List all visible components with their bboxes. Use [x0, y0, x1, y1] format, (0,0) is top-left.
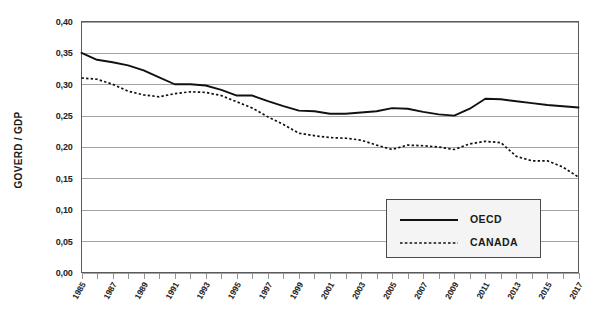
y-axis-tick-label: 0,25 [56, 111, 73, 121]
series-group [82, 53, 579, 177]
legend-label-oecd: OECD [470, 213, 502, 225]
x-axis-tick-label: 2005 [381, 280, 399, 301]
series-line-canada [82, 78, 579, 177]
x-axis-tick-label: 1993 [194, 280, 212, 301]
y-axis-tick-label: 0,00 [56, 268, 73, 278]
y-axis-tick-label: 0,15 [56, 174, 73, 184]
x-axis-tick-label: 2003 [350, 280, 368, 301]
x-axis: 1985198719891991199319951997199920012003… [70, 273, 585, 301]
x-axis-tick-label: 1997 [257, 280, 275, 301]
y-axis-tick-label: 0,20 [56, 142, 73, 152]
x-axis-tick-label: 2017 [567, 280, 585, 301]
legend: OECDCANADA [387, 200, 541, 258]
x-axis-tick-label: 1995 [225, 280, 243, 301]
y-axis-tick-label: 0,05 [56, 237, 73, 247]
legend-label-canada: CANADA [470, 236, 518, 248]
legend-box [387, 200, 541, 258]
x-axis-tick-label: 2009 [443, 280, 461, 301]
x-axis-tick-label: 1999 [288, 280, 306, 301]
y-axis-tick-label: 0,30 [56, 80, 73, 90]
x-axis-tick-label: 1987 [101, 280, 119, 301]
x-axis-tick-label: 2013 [505, 280, 523, 301]
chart-container: 0,000,050,100,150,200,250,300,350,40GOVE… [0, 0, 596, 319]
x-axis-tick-label: 1991 [163, 280, 181, 301]
x-axis-tick-label: 1985 [70, 280, 88, 301]
line-chart: 0,000,050,100,150,200,250,300,350,40GOVE… [0, 0, 596, 319]
y-axis-title: GOVERD / GDP [13, 112, 24, 189]
y-axis-tick-label: 0,35 [56, 48, 73, 58]
y-axis-tick-label: 0,40 [56, 17, 73, 27]
x-axis-tick-label: 2015 [536, 280, 554, 301]
x-axis-tick-label: 2011 [474, 280, 492, 301]
x-axis-tick-label: 1989 [132, 280, 150, 301]
y-axis-tick-label: 0,10 [56, 205, 73, 215]
x-axis-tick-label: 2007 [412, 280, 430, 301]
x-axis-tick-label: 2001 [319, 280, 337, 301]
